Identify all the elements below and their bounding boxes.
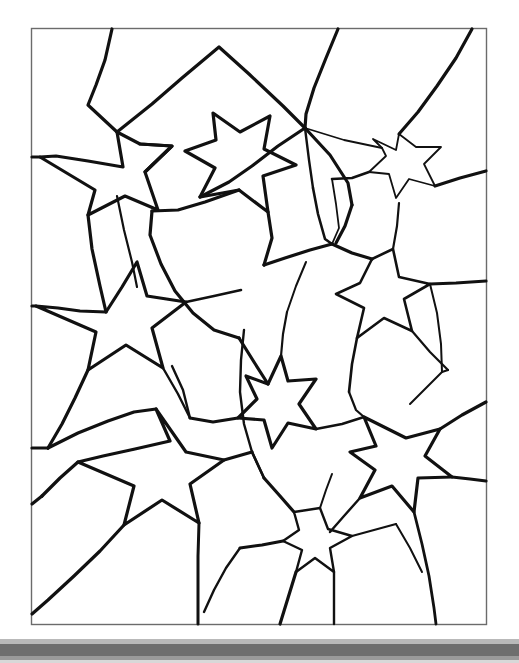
- coloring-page-canvas: Star Mosaic Coloring Page Scanned black-…: [0, 0, 519, 663]
- paper-background: [0, 0, 519, 663]
- star-mosaic-artwork: [0, 0, 519, 663]
- scanner-edge-bar-dark: [0, 644, 519, 656]
- artboard: [0, 0, 519, 663]
- star-lower-left-down-arm: [198, 523, 199, 624]
